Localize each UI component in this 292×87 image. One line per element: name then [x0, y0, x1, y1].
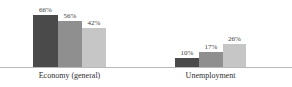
- bar-slot: 42%: [82, 0, 106, 67]
- bar: [58, 21, 82, 67]
- bar-slot: 26%: [223, 0, 246, 67]
- x-axis-line: [0, 67, 292, 68]
- bar: [199, 52, 223, 67]
- bar-group-bars: 66% 56% 42%: [33, 0, 106, 67]
- bar-group-economy-general: 66% 56% 42%: [33, 0, 106, 67]
- bar-value-label: 26%: [228, 35, 241, 43]
- plot-area: 66% 56% 42% 10%: [0, 0, 292, 67]
- bar-slot: 66%: [33, 0, 58, 67]
- category-label-unemployment: Unemployment: [175, 71, 246, 81]
- bar-value-label: 56%: [64, 12, 77, 20]
- bar-group-bars: 10% 17% 26%: [175, 0, 246, 67]
- bar-value-label: 66%: [39, 6, 52, 14]
- bar: [223, 44, 246, 67]
- bar-value-label: 10%: [181, 49, 194, 57]
- bar-value-label: 42%: [88, 19, 101, 27]
- bar-slot: 56%: [58, 0, 82, 67]
- bar-group-unemployment: 10% 17% 26%: [175, 0, 246, 67]
- bar: [82, 28, 106, 67]
- bar: [33, 15, 58, 67]
- bar-chart: 66% 56% 42% 10%: [0, 0, 292, 87]
- bar-slot: 17%: [199, 0, 223, 67]
- category-label-economy-general: Economy (general): [33, 71, 106, 81]
- bar: [175, 58, 199, 67]
- bar-value-label: 17%: [205, 43, 218, 51]
- bar-slot: 10%: [175, 0, 199, 67]
